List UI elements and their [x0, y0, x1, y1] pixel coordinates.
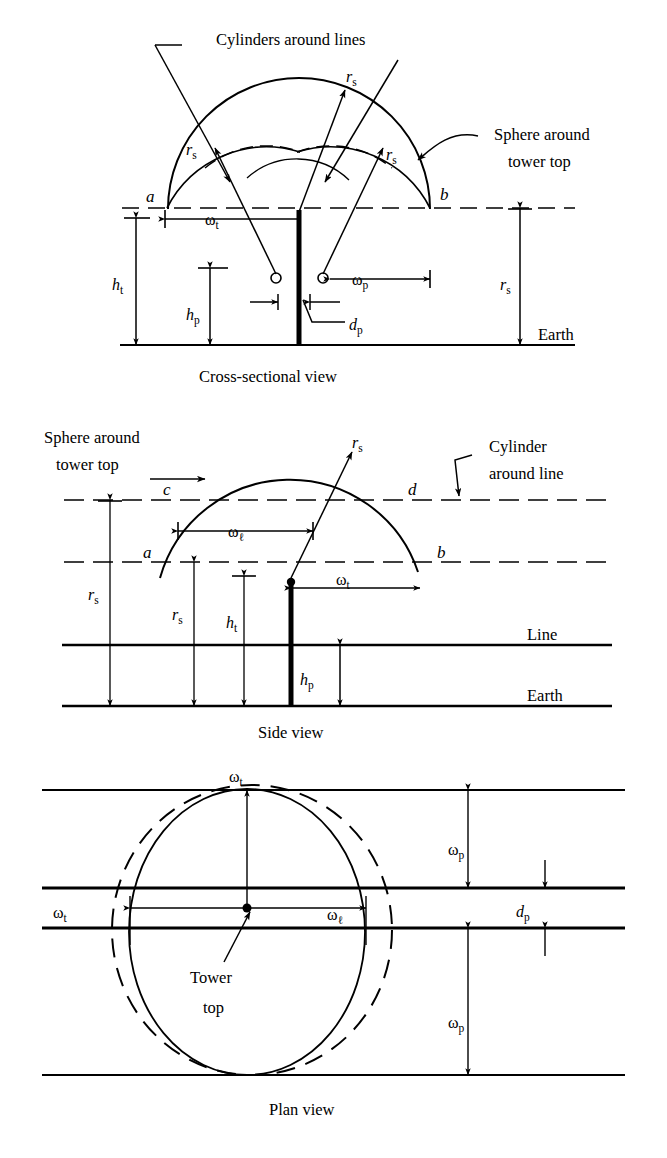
svg-text:ωℓ: ωℓ [228, 523, 244, 543]
point-a-label-side: a [143, 543, 152, 562]
svg-text:hp: hp [186, 306, 200, 327]
h-p-dimension-side: hp [300, 645, 340, 706]
cylinder-arc-right [297, 147, 430, 208]
svg-text:dp: dp [516, 903, 530, 924]
plan-dashed-ellipse [112, 785, 392, 1075]
svg-text:ωt: ωt [229, 768, 244, 788]
omega-p-upper-dimension-plan: ωp [448, 790, 468, 888]
rs-left-symbol: rs [186, 141, 197, 161]
tower-top-label-leader-plan [224, 912, 250, 962]
sphere-around-tower-top-arc-side [160, 480, 418, 578]
cylinder-label-leader-side [455, 455, 472, 496]
sphere-around-tower-top-arc [168, 78, 430, 209]
svg-text:rs: rs [346, 68, 357, 88]
tower-top-label-line2: top [203, 998, 224, 1017]
d-p-dimension: dp [303, 294, 363, 337]
cross-sectional-view: a b rs rs rs ωt ωp ht [112, 30, 591, 386]
rs-radius-leader-side [291, 452, 352, 578]
svg-text:ωt: ωt [205, 211, 220, 231]
svg-text:rs: rs [88, 586, 99, 606]
line-label-side: Line [527, 625, 557, 644]
cylinders-label-leader-right [325, 60, 398, 182]
omega-t-dimension-side: ωt [291, 571, 420, 591]
omega-l-dimension-side: ωℓ [178, 522, 313, 543]
side-view-caption: Side view [258, 723, 324, 742]
svg-text:ht: ht [226, 614, 238, 634]
omega-t-dimension: ωt [165, 210, 245, 231]
sphere-around-tower-top-label-side-line1: Sphere around [44, 428, 141, 447]
conductor-offset-left [250, 294, 278, 310]
plan-view: ωt ωt ωℓ Tower top ωp ωp dp [42, 768, 625, 1119]
svg-text:ωp: ωp [352, 271, 369, 292]
d-p-dimension-plan: dp [516, 860, 545, 956]
svg-text:ωp: ωp [448, 1014, 465, 1035]
cylinder-around-line-label-line2: around line [489, 464, 564, 483]
svg-text:hp: hp [300, 671, 314, 692]
sphere-around-tower-top-label-line1: Sphere around [494, 125, 591, 144]
rs-inner-dimension-side: rs [172, 562, 194, 706]
omega-p-lower-dimension-plan: ωp [448, 928, 468, 1075]
svg-text:rs: rs [352, 434, 363, 454]
cylinders-label-leader [155, 45, 230, 182]
h-t-dimension: ht [112, 218, 150, 345]
sphere-around-tower-top-label-line2: tower top [508, 152, 571, 171]
cylinder-around-line-label-line1: Cylinder [489, 437, 547, 456]
earth-label-cross-section: Earth [538, 325, 574, 344]
lightning-protection-figure: a b rs rs rs ωt ωp ht [0, 0, 667, 1158]
plan-view-caption: Plan view [269, 1100, 335, 1119]
h-p-dimension: hp [186, 268, 228, 345]
rs-earth-dimension: rs [500, 208, 532, 345]
cylinder-arc-inner-lower [247, 159, 349, 180]
cylinders-around-lines-label: Cylinders around lines [216, 30, 365, 49]
rs-leader-left-cylinder [215, 148, 276, 274]
point-c-label: c [163, 480, 171, 499]
svg-text:ht: ht [112, 276, 124, 296]
point-d-label: d [408, 480, 417, 499]
svg-text:ωt: ωt [53, 904, 68, 924]
earth-label-side: Earth [527, 686, 563, 705]
sphere-around-tower-top-label-side-line2: tower top [56, 455, 119, 474]
tower-top-node-side [287, 578, 295, 586]
rs-top-symbol: rs [346, 68, 357, 88]
svg-text:rs: rs [172, 606, 183, 626]
svg-text:rs: rs [500, 276, 511, 296]
rs-arc-symbol-side: rs [352, 434, 363, 454]
rs-outer-dimension-side: rs [88, 500, 122, 706]
point-a-label: a [146, 187, 155, 206]
svg-text:ωp: ωp [448, 841, 465, 862]
tower-top-label-line1: Tower [190, 968, 232, 987]
svg-text:rs: rs [186, 141, 197, 161]
point-b-label: b [440, 185, 449, 204]
cross-sectional-view-caption: Cross-sectional view [199, 367, 337, 386]
figure-canvas: a b rs rs rs ωt ωp ht [0, 0, 667, 1158]
rs-leader-top [299, 90, 345, 212]
omega-horizontal-dimension-plan: ωt ωℓ [53, 896, 366, 945]
svg-text:ωℓ: ωℓ [327, 906, 343, 926]
omega-p-dimension: ωp [330, 270, 430, 292]
conductor-right [318, 273, 328, 283]
svg-text:dp: dp [349, 316, 363, 337]
point-b-label-side: b [437, 543, 446, 562]
side-view: c d a b rs ωℓ ωt rs rs [44, 428, 612, 742]
sphere-label-leader [418, 135, 478, 160]
conductor-left [271, 273, 281, 283]
h-t-dimension-side: ht [226, 576, 256, 706]
